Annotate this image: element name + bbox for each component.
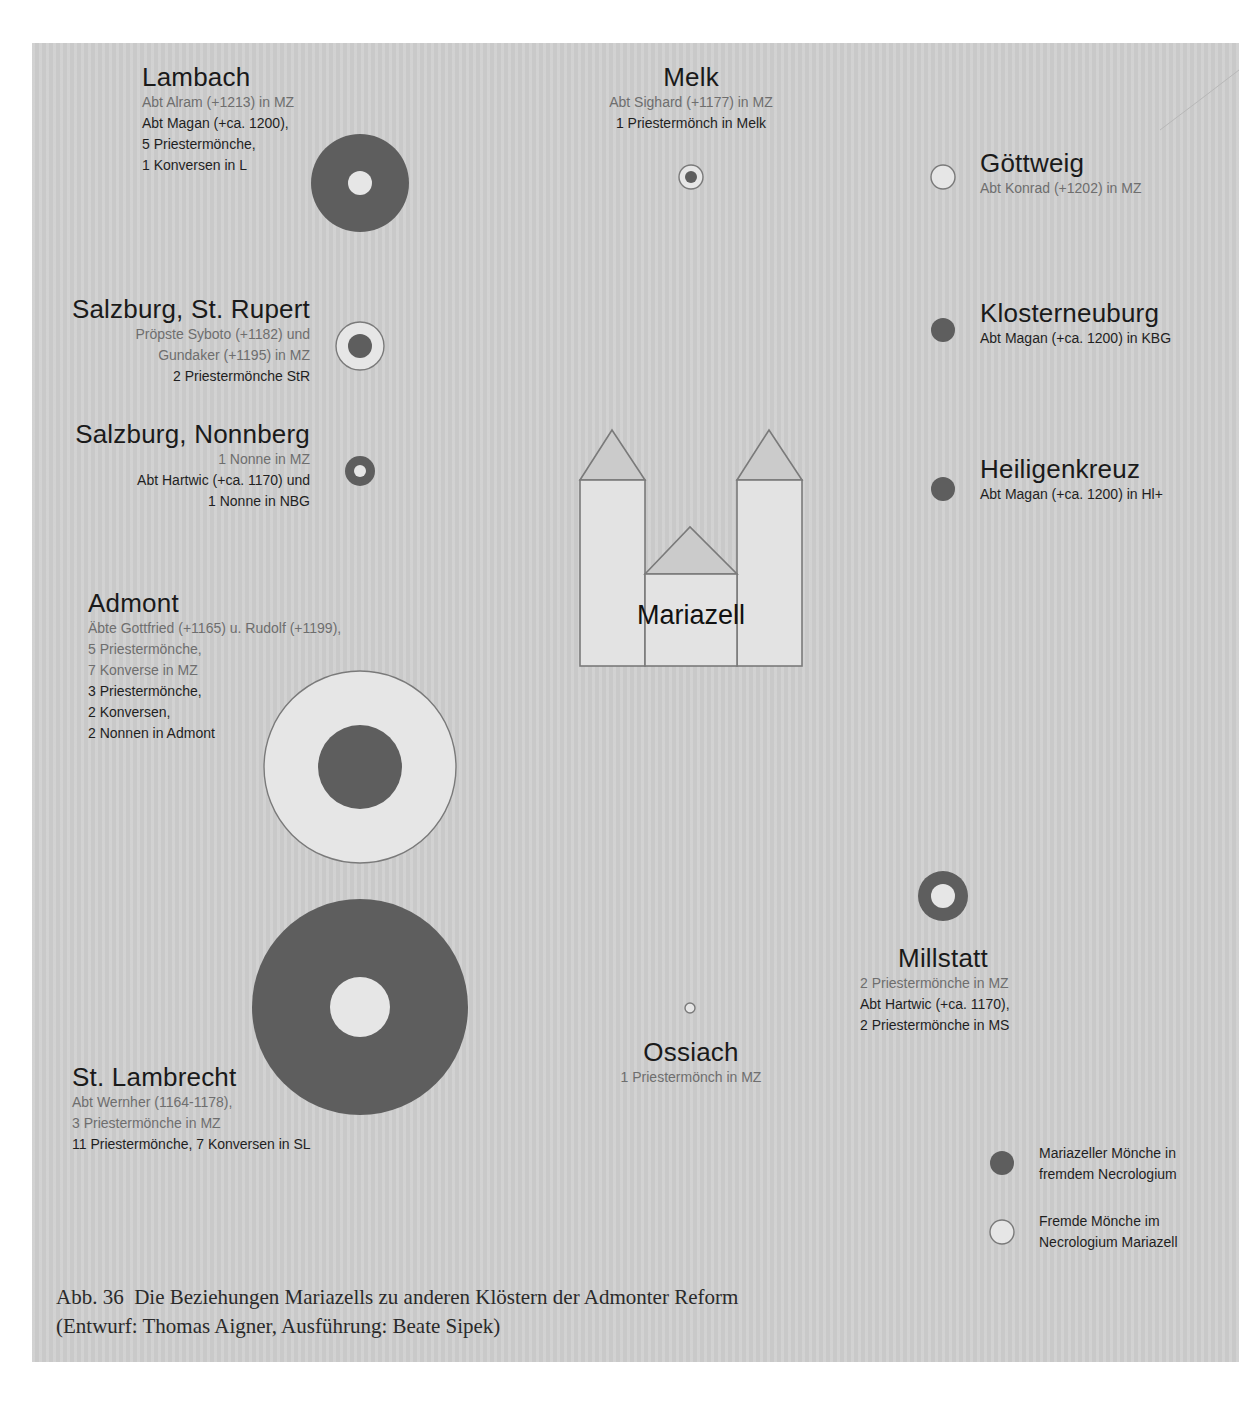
caption-line-1: Abb. 36 Die Beziehungen Mariazells zu an… xyxy=(56,1283,738,1312)
inner-dot xyxy=(348,334,372,358)
outer-ring xyxy=(931,165,955,189)
mz-line: Abt Alram (+1213) in MZ xyxy=(142,92,294,113)
mz-line: 1 Priestermönch in MZ xyxy=(591,1067,791,1088)
legend-line: fremdem Necrologium xyxy=(1039,1164,1177,1185)
own-line: 11 Priestermönche, 7 Konversen in SL xyxy=(72,1134,311,1155)
own-line: 2 Nonnen in Admont xyxy=(88,723,341,744)
nave-roof xyxy=(645,527,737,574)
mz-line: Abt Sighard (+1177) in MZ xyxy=(571,92,811,113)
center-monastery-name: Mariazell xyxy=(591,600,791,631)
monastery-name: Admont xyxy=(88,588,341,618)
legend-line: Mariazeller Mönche in xyxy=(1039,1143,1177,1164)
mz-line: Abt Wernher (1164-1178), xyxy=(72,1092,311,1113)
right-tower-roof xyxy=(737,430,802,480)
marker-millstatt-icon xyxy=(918,871,968,921)
own-line: 5 Priestermönche, xyxy=(142,134,294,155)
monastery-name: Melk xyxy=(571,62,811,92)
marker-lambach-icon xyxy=(311,134,409,232)
marker-salzburg-nonnberg-icon xyxy=(345,456,375,486)
mz-line: Abt Konrad (+1202) in MZ xyxy=(980,178,1141,199)
monastery-name: Ossiach xyxy=(591,1037,791,1067)
monastery-name: Millstatt xyxy=(843,943,1043,973)
mz-line: 7 Konverse in MZ xyxy=(88,660,341,681)
left-tower xyxy=(580,480,645,666)
mz-line: 5 Priestermönche, xyxy=(88,639,341,660)
monastery-millstatt: Millstatt 2 Priestermönche in MZ Abt Har… xyxy=(843,943,1043,1036)
monastery-name: St. Lambrecht xyxy=(72,1062,311,1092)
mz-line: 3 Priestermönche in MZ xyxy=(72,1113,311,1134)
marker-ossiach-icon xyxy=(685,1003,695,1013)
own-line: 1 Nonne in NBG xyxy=(40,491,310,512)
inner-dot xyxy=(931,884,955,908)
monastery-heiligenkreuz: Heiligenkreuz Abt Magan (+ca. 1200) in H… xyxy=(980,454,1163,505)
own-line: 1 Priestermönch in Melk xyxy=(571,113,811,134)
monastery-melk: Melk Abt Sighard (+1177) in MZ 1 Prieste… xyxy=(571,62,811,134)
legend-filled-circle-icon xyxy=(990,1151,1014,1175)
monastery-lambach: Lambach Abt Alram (+1213) in MZ Abt Maga… xyxy=(142,62,294,176)
monastery-name: Salzburg, Nonnberg xyxy=(40,419,310,449)
monastery-name: Salzburg, St. Rupert xyxy=(40,294,310,324)
own-line: Abt Magan (+ca. 1200) in KBG xyxy=(980,328,1171,349)
monastery-name: Heiligenkreuz xyxy=(980,454,1163,484)
monastery-name: Lambach xyxy=(142,62,294,92)
legend-line: Necrologium Mariazell xyxy=(1039,1232,1178,1253)
caption-line-2: (Entwurf: Thomas Aigner, Ausführung: Bea… xyxy=(56,1312,738,1341)
own-line: 2 Konversen, xyxy=(88,702,341,723)
monastery-name: Göttweig xyxy=(980,148,1141,178)
outer-ring xyxy=(685,1003,695,1013)
marker-klosterneuburg-icon xyxy=(931,318,955,342)
inner-dot xyxy=(330,977,390,1037)
mz-line: Pröpste Syboto (+1182) und xyxy=(40,324,310,345)
marker-heiligenkreuz-icon xyxy=(931,477,955,501)
own-line: Abt Magan (+ca. 1200), xyxy=(142,113,294,134)
mz-line: 1 Nonne in MZ xyxy=(40,449,310,470)
inner-dot xyxy=(348,171,372,195)
marker-melk-icon xyxy=(679,165,703,189)
legend-item-foreign-monks: Fremde Mönche im Necrologium Mariazell xyxy=(1039,1211,1178,1253)
legend-open-circle-icon xyxy=(990,1220,1014,1244)
own-line: Abt Magan (+ca. 1200) in Hl+ xyxy=(980,484,1163,505)
mz-line: Gundaker (+1195) in MZ xyxy=(40,345,310,366)
own-line: 2 Priestermönche StR xyxy=(40,366,310,387)
monastery-salzburg-st-rupert: Salzburg, St. Rupert Pröpste Syboto (+11… xyxy=(40,294,310,387)
mz-line: Äbte Gottfried (+1165) u. Rudolf (+1199)… xyxy=(88,618,341,639)
monastery-klosterneuburg: Klosterneuburg Abt Magan (+ca. 1200) in … xyxy=(980,298,1171,349)
outer-ring xyxy=(931,318,955,342)
decorative-arc xyxy=(1160,70,1239,130)
own-line: Abt Hartwic (+ca. 1170) und xyxy=(40,470,310,491)
legend-line: Fremde Mönche im xyxy=(1039,1211,1178,1232)
inner-dot xyxy=(685,171,697,183)
own-line: 2 Priestermönche in MS xyxy=(843,1015,1043,1036)
monastery-ossiach: Ossiach 1 Priestermönch in MZ xyxy=(591,1037,791,1088)
own-line: Abt Hartwic (+ca. 1170), xyxy=(843,994,1043,1015)
marker-salzburg-st-rupert-icon xyxy=(336,322,384,370)
legend-item-mariazell-monks: Mariazeller Mönche in fremdem Necrologiu… xyxy=(1039,1143,1177,1185)
mz-line: 2 Priestermönche in MZ xyxy=(843,973,1043,994)
monastery-name: Klosterneuburg xyxy=(980,298,1171,328)
monastery-salzburg-nonnberg: Salzburg, Nonnberg 1 Nonne in MZ Abt Har… xyxy=(40,419,310,512)
monastery-admont: Admont Äbte Gottfried (+1165) u. Rudolf … xyxy=(88,588,341,744)
own-line: 1 Konversen in L xyxy=(142,155,294,176)
monastery-goettweig: Göttweig Abt Konrad (+1202) in MZ xyxy=(980,148,1141,199)
monastery-st-lambrecht: St. Lambrecht Abt Wernher (1164-1178), 3… xyxy=(72,1062,311,1155)
outer-ring xyxy=(931,477,955,501)
inner-dot xyxy=(354,465,366,477)
own-line: 3 Priestermönche, xyxy=(88,681,341,702)
figure-caption: Abb. 36 Die Beziehungen Mariazells zu an… xyxy=(56,1283,738,1341)
marker-goettweig-icon xyxy=(931,165,955,189)
left-tower-roof xyxy=(580,430,645,480)
right-tower xyxy=(737,480,802,666)
